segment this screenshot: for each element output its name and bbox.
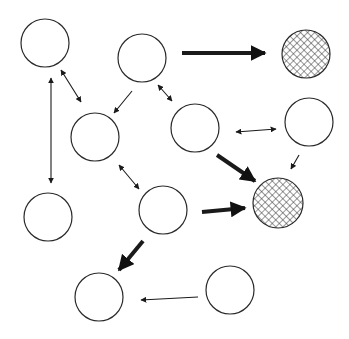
thin-arrow-n6-n9 (291, 155, 299, 169)
thick-arrow-n8-n10 (119, 241, 143, 270)
network-diagram (0, 0, 349, 339)
node-n8 (139, 186, 187, 234)
thin-arrow-n11-n10 (141, 297, 198, 300)
node-n6 (285, 98, 333, 146)
thin-double-arrow-n5-n6 (236, 129, 276, 132)
thin-double-arrow-n2-n5 (158, 85, 172, 101)
node-n7 (24, 193, 72, 241)
thick-arrow-n8-n9 (202, 208, 245, 212)
node-n5 (171, 104, 219, 152)
hatched-node-n3 (282, 30, 330, 78)
thin-double-arrow-n4-n8 (119, 165, 139, 189)
thin-double-arrow-n1-n4 (61, 70, 81, 102)
node-n2 (118, 34, 166, 82)
edges-layer (51, 53, 299, 300)
hatched-node-n9 (253, 178, 303, 228)
node-n1 (21, 19, 69, 67)
thick-arrow-n5-n9 (217, 155, 255, 181)
thin-arrow-n2-n4 (114, 91, 132, 113)
node-n10 (75, 273, 123, 321)
node-n11 (206, 266, 254, 314)
node-n4 (71, 113, 119, 161)
nodes-layer (21, 19, 333, 321)
